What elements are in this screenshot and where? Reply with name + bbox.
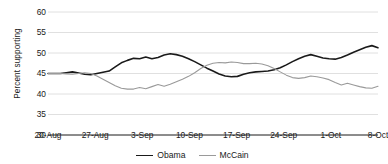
- chart-legend: ObamaMcCain: [0, 147, 385, 163]
- series-line-obama: [48, 46, 378, 77]
- series-line-mccain: [48, 62, 378, 89]
- x-tick-label: 8-Oct: [368, 131, 388, 139]
- x-tick-label: 1-Oct: [321, 131, 341, 139]
- x-axis-tick-labels: 20-Aug27-Aug3-Sep10-Sep17-Sep24-Sep1-Oct…: [0, 131, 385, 147]
- legend-line-swatch: [199, 155, 216, 156]
- x-tick-label: 3-Sep: [131, 131, 153, 139]
- x-tick-label: 20-Aug: [34, 131, 61, 139]
- x-tick-label: 17-Sep: [223, 131, 250, 139]
- legend-item-obama[interactable]: Obama: [136, 151, 185, 160]
- x-tick-label: 10-Sep: [176, 131, 203, 139]
- legend-label: McCain: [220, 151, 249, 160]
- x-tick-label: 24-Sep: [270, 131, 297, 139]
- series-lines: [48, 46, 378, 89]
- legend-label: Obama: [157, 151, 185, 160]
- legend-item-mccain[interactable]: McCain: [199, 151, 249, 160]
- legend-line-swatch: [136, 155, 153, 156]
- x-tick-label: 27-Aug: [82, 131, 109, 139]
